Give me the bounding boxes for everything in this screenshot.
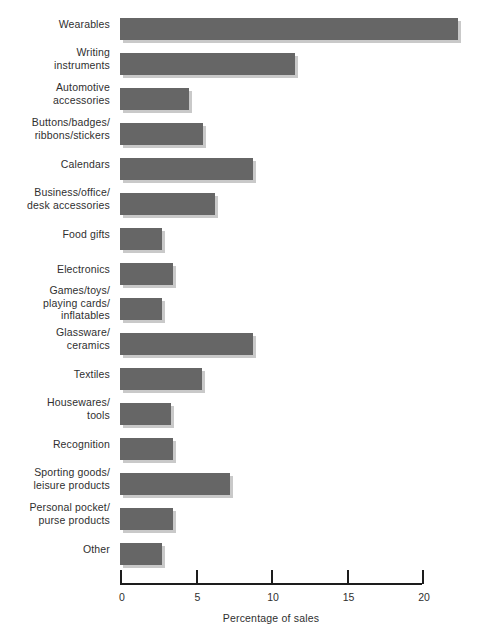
percentage-of-sales-bar-chart: WearablesWriting instrumentsAutomotive a… <box>0 0 478 637</box>
category-label: Textiles <box>0 368 110 381</box>
bar-row: Food gifts <box>0 223 478 257</box>
bar-row: Other <box>0 538 478 572</box>
bar-row: Buttons/badges/ ribbons/stickers <box>0 118 478 152</box>
axis-tick-label: 5 <box>178 591 218 603</box>
bar <box>120 473 230 495</box>
bar <box>120 123 203 145</box>
category-label: Glassware/ ceramics <box>0 326 110 351</box>
bar <box>120 53 295 75</box>
category-label: Wearables <box>0 18 110 31</box>
bar <box>120 508 173 530</box>
axis-tick-label: 10 <box>253 591 293 603</box>
bar-row: Automotive accessories <box>0 83 478 117</box>
bar <box>120 263 173 285</box>
category-label: Buttons/badges/ ribbons/stickers <box>0 116 110 141</box>
axis-tick <box>196 570 198 584</box>
bar-row: Personal pocket/ purse products <box>0 503 478 537</box>
axis-tick <box>422 570 424 584</box>
bar-row: Games/toys/ playing cards/ inflatables <box>0 293 478 327</box>
bar <box>120 333 253 355</box>
category-label: Food gifts <box>0 228 110 241</box>
category-label: Automotive accessories <box>0 81 110 106</box>
bar <box>120 18 458 40</box>
axis-tick <box>347 570 349 584</box>
bar-row: Writing instruments <box>0 48 478 82</box>
axis-tick-label: 0 <box>102 591 142 603</box>
category-label: Calendars <box>0 158 110 171</box>
category-label: Other <box>0 543 110 556</box>
bar-row: Housewares/ tools <box>0 398 478 432</box>
bar-row: Calendars <box>0 153 478 187</box>
category-label: Games/toys/ playing cards/ inflatables <box>0 284 110 322</box>
bar <box>120 88 189 110</box>
bar-row: Business/office/ desk accessories <box>0 188 478 222</box>
bar-row: Glassware/ ceramics <box>0 328 478 362</box>
axis-tick <box>271 570 273 584</box>
axis-tick-label: 15 <box>329 591 369 603</box>
bar <box>120 193 215 215</box>
bar <box>120 403 171 425</box>
category-label: Sporting goods/ leisure products <box>0 466 110 491</box>
bar <box>120 298 162 320</box>
bar <box>120 368 202 390</box>
category-label: Electronics <box>0 263 110 276</box>
x-axis-title: Percentage of sales <box>120 612 422 624</box>
bar <box>120 228 162 250</box>
bar <box>120 543 162 565</box>
bar <box>120 158 253 180</box>
bar-row: Recognition <box>0 433 478 467</box>
category-label: Business/office/ desk accessories <box>0 186 110 211</box>
category-label: Personal pocket/ purse products <box>0 501 110 526</box>
bar <box>120 438 173 460</box>
axis-tick-label: 20 <box>404 591 444 603</box>
category-label: Writing instruments <box>0 46 110 71</box>
bar-row: Textiles <box>0 363 478 397</box>
bar-row: Sporting goods/ leisure products <box>0 468 478 502</box>
plot-area: WearablesWriting instrumentsAutomotive a… <box>0 0 478 637</box>
category-label: Recognition <box>0 438 110 451</box>
bar-row: Wearables <box>0 13 478 47</box>
axis-tick <box>120 570 122 584</box>
category-label: Housewares/ tools <box>0 396 110 421</box>
